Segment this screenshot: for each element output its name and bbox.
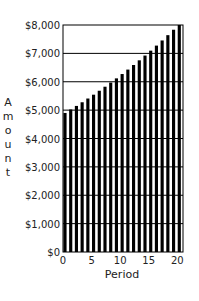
bar: [63, 113, 66, 252]
y-tick-label: $4,000: [25, 134, 60, 145]
bar: [149, 51, 152, 252]
y-axis-title-letter: o: [5, 124, 12, 137]
bar: [86, 99, 89, 252]
x-tick-label: 0: [60, 255, 66, 266]
bar: [69, 109, 72, 252]
bar: [103, 87, 106, 252]
x-axis-title: Period: [105, 268, 139, 281]
bar: [121, 74, 124, 252]
y-tick-label: $6,000: [25, 77, 60, 88]
y-axis-title-letter: m: [3, 110, 14, 123]
y-tick-label: $3,000: [25, 162, 60, 173]
bar: [98, 91, 101, 252]
bar: [75, 106, 78, 252]
y-axis-title-letter: n: [5, 152, 12, 165]
y-axis-title-letter: t: [6, 166, 11, 179]
y-axis-title-letter: u: [5, 138, 12, 151]
x-tick-label: 20: [171, 255, 184, 266]
y-tick-label: $7,000: [25, 48, 60, 59]
y-tick-label: $0: [47, 247, 60, 258]
x-tick-label: 10: [114, 255, 127, 266]
x-tick-label: 15: [142, 255, 155, 266]
bar: [109, 83, 112, 252]
y-tick-label: $2,000: [25, 190, 60, 201]
bar: [143, 56, 146, 252]
bars: [63, 25, 180, 252]
bar: [161, 40, 164, 252]
bar: [155, 46, 158, 252]
bar-chart: $0$1,000$2,000$3,000$4,000$5,000$6,000$7…: [0, 0, 199, 301]
y-axis-title: Amount: [3, 96, 14, 179]
bar: [178, 25, 181, 252]
bar: [92, 95, 95, 252]
bar: [138, 60, 141, 252]
y-tick-label: $8,000: [25, 20, 60, 31]
y-tick-label: $1,000: [25, 219, 60, 230]
bar: [115, 78, 118, 252]
bar: [166, 35, 169, 252]
bar: [172, 30, 175, 252]
bar: [126, 70, 129, 252]
y-axis-ticks: $0$1,000$2,000$3,000$4,000$5,000$6,000$7…: [25, 20, 60, 258]
bar: [132, 65, 135, 252]
x-tick-label: 5: [88, 255, 94, 266]
bar: [81, 102, 84, 252]
y-axis-title-letter: A: [4, 96, 12, 109]
x-axis-ticks: 05101520: [60, 255, 184, 266]
y-tick-label: $5,000: [25, 105, 60, 116]
